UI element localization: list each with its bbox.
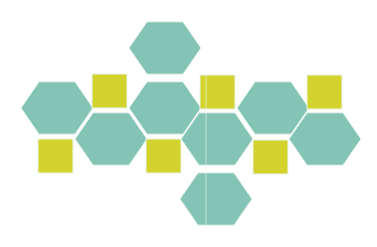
hex-bottom bbox=[180, 173, 252, 225]
square-upper-3 bbox=[307, 75, 342, 109]
net-canvas bbox=[0, 0, 377, 247]
hexagon-group bbox=[21, 22, 361, 225]
hex-top bbox=[129, 22, 201, 74]
square-lower-1 bbox=[38, 139, 73, 173]
square-upper-1 bbox=[92, 74, 127, 108]
polyhedron-net-diagram bbox=[0, 0, 377, 247]
square-lower-2 bbox=[146, 139, 181, 173]
hex-row2-left bbox=[75, 113, 147, 165]
square-lower-3 bbox=[253, 140, 288, 174]
hex-row1-left bbox=[21, 82, 93, 134]
square-upper-2 bbox=[200, 75, 235, 109]
